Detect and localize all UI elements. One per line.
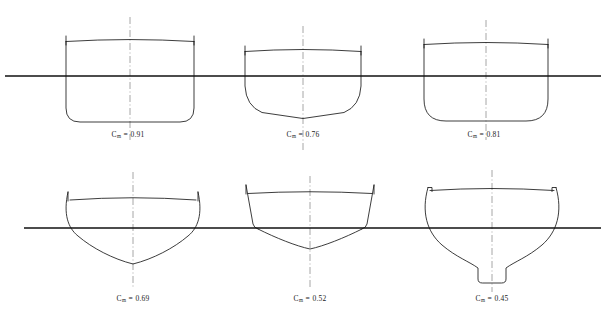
midship-sections-figure <box>0 0 606 320</box>
label-cm-091: Cm=0.91 <box>112 130 145 139</box>
label-value: 0.91 <box>130 130 144 139</box>
label-value: 0.69 <box>135 294 149 303</box>
label-equals: = <box>121 130 131 139</box>
label-cm-076: Cm=0.76 <box>287 130 320 139</box>
label-cm-052: Cm=0.52 <box>294 294 327 303</box>
label-value: 0.81 <box>486 130 500 139</box>
label-equals: = <box>477 130 487 139</box>
label-equals: = <box>126 294 136 303</box>
label-value: 0.45 <box>494 294 508 303</box>
figure-background <box>0 0 606 320</box>
label-cm-081: Cm=0.81 <box>468 130 501 139</box>
label-cm-069: Cm=0.69 <box>117 294 150 303</box>
label-equals: = <box>485 294 495 303</box>
label-equals: = <box>303 294 313 303</box>
label-equals: = <box>296 130 306 139</box>
label-value: 0.76 <box>305 130 319 139</box>
label-value: 0.52 <box>312 294 326 303</box>
label-cm-045: Cm=0.45 <box>476 294 509 303</box>
